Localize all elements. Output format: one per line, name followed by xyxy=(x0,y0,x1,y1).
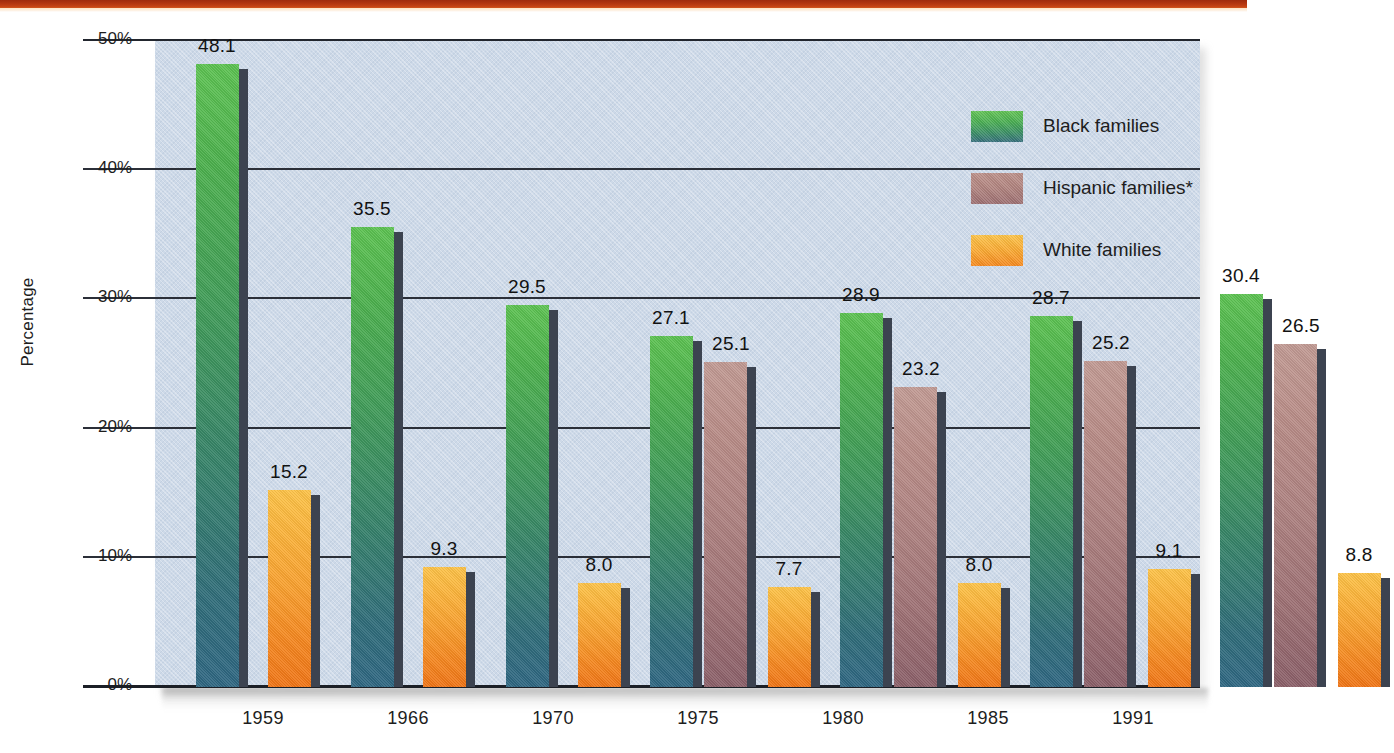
bar-1980-white-families[interactable] xyxy=(958,583,1001,687)
bar-fill xyxy=(1084,361,1127,687)
bar-1985-white-families[interactable] xyxy=(1148,569,1191,687)
bar-label-1959-black-families: 48.1 xyxy=(175,35,259,57)
x-tick-label-1975: 1975 xyxy=(638,708,758,729)
x-tick-label-1980: 1980 xyxy=(783,708,903,729)
bar-side-shade xyxy=(937,392,946,687)
bar-side-shade xyxy=(239,69,248,687)
bar-label-1985-black-families: 28.7 xyxy=(1009,287,1093,309)
bar-fill xyxy=(1274,344,1317,687)
bar-label-1975-hispanic-families: 25.1 xyxy=(689,333,773,355)
bar-label-1975-black-families: 27.1 xyxy=(629,307,713,329)
bar-side-shade xyxy=(311,495,320,687)
y-tick-label-50: 50% xyxy=(66,29,132,49)
bar-1980-hispanic-families[interactable] xyxy=(894,387,937,687)
bar-1985-black-families[interactable] xyxy=(1030,316,1073,687)
bar-label-1980-hispanic-families: 23.2 xyxy=(879,358,963,380)
bar-1980-black-families[interactable] xyxy=(840,313,883,687)
bar-label-1970-black-families: 29.5 xyxy=(485,276,569,298)
bar-fill xyxy=(704,362,747,687)
axis-ground-shadow xyxy=(162,688,1208,710)
bar-1985-hispanic-families[interactable] xyxy=(1084,361,1127,687)
bar-label-1959-white-families: 15.2 xyxy=(247,461,331,483)
bar-label-1985-white-families: 9.1 xyxy=(1127,540,1211,562)
bar-fill xyxy=(351,227,394,687)
bar-side-shade xyxy=(693,341,702,687)
bar-fill xyxy=(650,336,693,687)
legend-swatch-black-families xyxy=(971,111,1023,142)
bar-1975-black-families[interactable] xyxy=(650,336,693,687)
bar-side-shade xyxy=(1191,574,1200,687)
bar-1991-black-families[interactable] xyxy=(1220,294,1263,687)
y-tick-label-10: 10% xyxy=(66,546,132,566)
bar-1975-white-families[interactable] xyxy=(768,587,811,687)
bar-side-shade xyxy=(747,367,756,687)
y-tick-label-40: 40% xyxy=(66,158,132,178)
bar-fill xyxy=(840,313,883,687)
legend-swatch-hispanic-families xyxy=(971,173,1023,204)
legend-label-hispanic-families: Hispanic families* xyxy=(1043,177,1193,199)
bar-side-shade xyxy=(1381,578,1390,687)
bar-chart-figure: Percentage 48.1 15.2 35.5 9 xyxy=(0,12,1247,753)
x-tick-label-1966: 1966 xyxy=(348,708,468,729)
bar-side-shade xyxy=(1001,588,1010,687)
bar-label-1991-hispanic-families: 26.5 xyxy=(1259,315,1343,337)
bar-fill xyxy=(578,583,621,687)
bar-side-shade xyxy=(1073,321,1082,687)
top-decorative-band xyxy=(0,0,1247,8)
bar-label-1980-white-families: 8.0 xyxy=(937,554,1021,576)
bar-side-shade xyxy=(811,592,820,687)
bar-fill xyxy=(958,583,1001,687)
bar-side-shade xyxy=(1127,366,1136,687)
bar-label-1970-white-families: 8.0 xyxy=(557,554,641,576)
bar-1991-white-families[interactable] xyxy=(1338,573,1381,687)
bar-fill xyxy=(1220,294,1263,687)
bar-fill xyxy=(768,587,811,687)
bar-label-1991-black-families: 30.4 xyxy=(1199,265,1283,287)
bar-1959-white-families[interactable] xyxy=(268,490,311,687)
bar-fill xyxy=(1338,573,1381,687)
bar-1970-black-families[interactable] xyxy=(506,305,549,687)
bar-fill xyxy=(1030,316,1073,687)
bar-fill xyxy=(423,567,466,687)
bar-1975-hispanic-families[interactable] xyxy=(704,362,747,687)
bar-side-shade xyxy=(621,588,630,687)
bar-fill xyxy=(196,64,239,687)
legend-label-black-families: Black families xyxy=(1043,115,1159,137)
bar-side-shade xyxy=(1263,299,1272,687)
y-tick-label-0: 0% xyxy=(66,675,132,695)
x-tick-label-1959: 1959 xyxy=(203,708,323,729)
bar-1966-white-families[interactable] xyxy=(423,567,466,687)
bar-label-1975-white-families: 7.7 xyxy=(747,558,831,580)
plot-area: 48.1 15.2 35.5 9.3 29.5 8.0 xyxy=(155,39,1200,687)
bar-side-shade xyxy=(466,572,475,687)
y-axis-title: Percentage xyxy=(18,252,38,392)
bar-fill xyxy=(506,305,549,687)
bar-1966-black-families[interactable] xyxy=(351,227,394,687)
bar-fill xyxy=(894,387,937,687)
bar-fill xyxy=(1148,569,1191,687)
bar-1959-black-families[interactable] xyxy=(196,64,239,687)
bar-label-1966-black-families: 35.5 xyxy=(330,198,414,220)
y-tick-label-20: 20% xyxy=(66,417,132,437)
x-tick-label-1985: 1985 xyxy=(928,708,1048,729)
legend-label-white-families: White families xyxy=(1043,239,1161,261)
gridline-40 xyxy=(83,168,1200,170)
x-tick-label-1970: 1970 xyxy=(493,708,613,729)
bar-1970-white-families[interactable] xyxy=(578,583,621,687)
bar-label-1985-hispanic-families: 25.2 xyxy=(1069,332,1153,354)
bar-label-1991-white-families: 8.8 xyxy=(1317,544,1394,566)
bar-side-shade xyxy=(394,232,403,687)
legend-swatch-white-families xyxy=(971,235,1023,266)
bar-label-1966-white-families: 9.3 xyxy=(402,538,486,560)
y-tick-label-30: 30% xyxy=(66,287,132,307)
bar-side-shade xyxy=(1317,349,1326,687)
x-tick-label-1991: 1991 xyxy=(1073,708,1193,729)
bar-side-shade xyxy=(549,310,558,687)
bar-label-1980-black-families: 28.9 xyxy=(819,284,903,306)
bar-fill xyxy=(268,490,311,687)
bar-1991-hispanic-families[interactable] xyxy=(1274,344,1317,687)
